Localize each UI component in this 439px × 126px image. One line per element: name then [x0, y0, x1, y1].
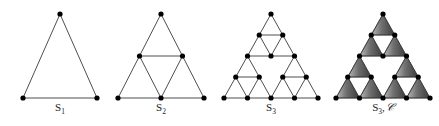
- shaded-triangle-8: [383, 77, 407, 98]
- gasket-node-12: [280, 74, 285, 79]
- gasket-edge-21: [295, 56, 307, 77]
- gasket-node-6: [404, 53, 409, 58]
- gasket-edge-7: [161, 56, 183, 98]
- gasket-node-4: [115, 95, 120, 100]
- gasket-nodes: [20, 11, 99, 100]
- gasket-node-15: [315, 95, 320, 100]
- gasket-node-1: [158, 11, 163, 16]
- gasket-edge-12: [248, 56, 260, 77]
- gasket-edge-27: [306, 77, 318, 98]
- sierpinski-level-1: [20, 11, 99, 100]
- gasket-edge-3: [161, 14, 183, 56]
- gasket-edge-1: [259, 14, 271, 35]
- gasket-node-6: [201, 95, 206, 100]
- gasket-node-8: [257, 74, 262, 79]
- gasket-edge-3: [271, 14, 283, 35]
- gasket-node-9: [333, 95, 338, 100]
- gasket-node-1: [268, 11, 273, 16]
- gasket-node-5: [380, 53, 385, 58]
- gasket-edge-4: [248, 35, 260, 56]
- gasket-node-7: [345, 74, 350, 79]
- caption-s3: S3: [211, 102, 331, 116]
- gasket-node-13: [304, 74, 309, 79]
- gasket-node-2: [369, 32, 374, 37]
- gasket-node-10: [245, 95, 250, 100]
- gasket-edge-25: [295, 77, 307, 98]
- gasket-edge-6: [259, 35, 271, 56]
- shaded-triangle-4: [348, 56, 372, 77]
- gasket-nodes: [221, 11, 320, 100]
- gasket-edge-16: [248, 77, 260, 98]
- gasket-edge-1: [23, 14, 60, 98]
- gasket-node-13: [416, 74, 421, 79]
- gasket-node-14: [292, 95, 297, 100]
- gasket-edge-15: [236, 77, 248, 98]
- gasket-node-8: [369, 74, 374, 79]
- gasket-node-11: [380, 95, 385, 100]
- gasket-edges: [23, 14, 97, 98]
- gasket-edge-19: [283, 56, 295, 77]
- gasket-node-11: [268, 95, 273, 100]
- gasket-node-1: [380, 11, 385, 16]
- caption-script-c: 𝒞: [385, 101, 394, 114]
- gasket-edge-9: [183, 56, 205, 98]
- gasket-node-2: [20, 95, 25, 100]
- gasket-node-10: [357, 95, 362, 100]
- gasket-edge-13: [224, 77, 236, 98]
- gasket-node-7: [233, 74, 238, 79]
- shaded-triangle-5: [336, 77, 360, 98]
- gasket-edges: [118, 14, 204, 98]
- gasket-edge-1: [140, 14, 162, 56]
- gasket-node-4: [245, 53, 250, 58]
- caption-s3-subscript: 3: [272, 107, 276, 116]
- gasket-node-6: [292, 53, 297, 58]
- panels-layer: [20, 11, 432, 100]
- sierpinski-level-2: [115, 11, 206, 100]
- gasket-edge-9: [283, 35, 295, 56]
- shaded-triangle-7: [395, 56, 419, 77]
- gasket-edge-7: [271, 35, 283, 56]
- gasket-node-5: [158, 95, 163, 100]
- sierpinski-level-3-shaded: [333, 11, 432, 100]
- gasket-edge-22: [271, 77, 283, 98]
- gasket-node-4: [357, 53, 362, 58]
- caption-s1-subscript: 1: [61, 107, 65, 116]
- shaded-triangle-1: [371, 14, 395, 35]
- gasket-node-5: [268, 53, 273, 58]
- gasket-node-1: [57, 11, 62, 16]
- caption-s3-shaded: S3,𝒞: [323, 102, 439, 116]
- sierpinski-level-3: [221, 11, 320, 100]
- gasket-edge-6: [140, 56, 162, 98]
- shaded-triangle-6: [360, 77, 384, 98]
- gasket-node-12: [392, 74, 397, 79]
- gasket-node-2: [257, 32, 262, 37]
- gasket-node-3: [280, 32, 285, 37]
- gasket-edge-24: [283, 77, 295, 98]
- gasket-node-3: [392, 32, 397, 37]
- gasket-node-14: [404, 95, 409, 100]
- caption-s2: S2: [101, 102, 221, 116]
- gasket-node-3: [180, 53, 185, 58]
- shaded-triangle-9: [407, 77, 431, 98]
- gasket-node-3: [94, 95, 99, 100]
- figure-board: S1 S2 S3 S3,𝒞: [0, 0, 439, 126]
- gasket-node-15: [427, 95, 432, 100]
- gasket-node-2: [137, 53, 142, 58]
- gasket-edge-18: [259, 77, 271, 98]
- gasket-edge-4: [118, 56, 140, 98]
- gasket-node-9: [221, 95, 226, 100]
- shaded-triangle-3: [383, 35, 407, 56]
- gasket-edge-3: [60, 14, 97, 98]
- caption-s2-subscript: 2: [162, 107, 166, 116]
- shaded-triangle-2: [360, 35, 384, 56]
- gasket-edge-10: [236, 56, 248, 77]
